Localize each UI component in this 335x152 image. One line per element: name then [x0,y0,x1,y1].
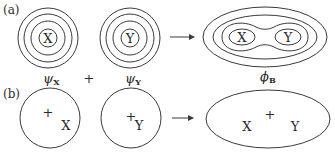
psi-y-label: ψY [125,71,141,87]
result-atom-x-label: X [237,30,247,45]
bonding-orbital-contours: X Y [203,7,327,67]
result-atom-x-label-b: X [242,119,252,134]
psi-x-label: ψX [43,71,60,87]
atom-x-label-b: X [61,118,71,133]
atom-x-boundary: + X [20,88,80,148]
panel-b-label: (b) [3,87,20,101]
phi-b-label: ϕB [260,69,276,85]
center-mark: + [265,107,276,122]
result-atom-y-label-b: Y [290,119,300,134]
nucleus-x-mark: + [43,105,54,120]
orbital-y-contours: Y [100,8,160,68]
result-atom-y-label: Y [283,30,293,45]
atom-x-label: X [43,31,53,46]
atom-y-label: Y [125,31,135,46]
atom-y-label-b: Y [134,118,144,133]
molecule-boundary: X + Y [206,90,330,148]
atom-y-boundary: + Y [101,88,161,148]
orbital-combination-diagram: (a) X Y X Y ψX + ψY ϕB (b) + X + Y [0,0,335,152]
plus-sign: + [84,71,95,86]
panel-a-label: (a) [3,3,20,17]
orbital-x-contours: X [18,8,78,68]
